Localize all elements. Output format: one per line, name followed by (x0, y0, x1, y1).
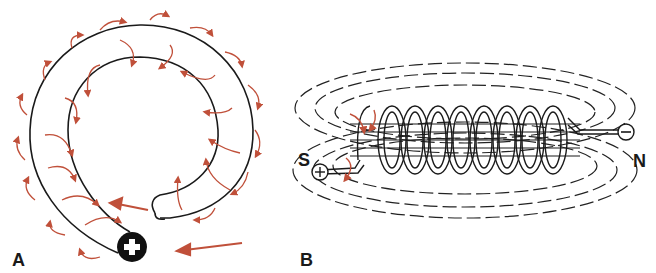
pole-label-south: S (298, 150, 310, 170)
positive-terminal-b (312, 164, 328, 180)
panel-label-a: A (12, 250, 25, 270)
panel-b-solenoid: S N B (280, 0, 656, 273)
pole-label-north: N (633, 151, 646, 171)
solenoid-diagram: S N B (280, 0, 656, 273)
wire-loop-diagram: A (0, 0, 280, 273)
panel-label-b: B (300, 250, 313, 270)
positive-terminal (117, 232, 147, 262)
panel-a-wire-loop: A (0, 0, 280, 273)
field-arrows (17, 14, 260, 259)
negative-terminal-b (618, 124, 634, 140)
